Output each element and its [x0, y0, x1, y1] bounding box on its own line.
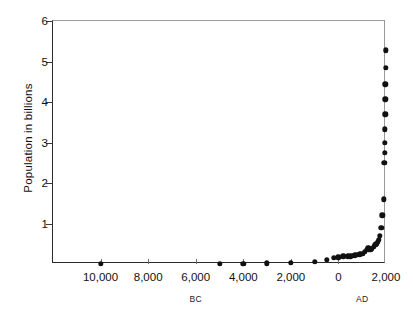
y-tick-label: 6: [42, 15, 48, 27]
era-label-ad: AD: [356, 294, 369, 304]
x-tick-label: 0: [335, 271, 341, 283]
data-point: [382, 160, 387, 165]
data-point: [379, 225, 384, 230]
x-tick-label: 10,000: [83, 271, 118, 283]
x-tick-label: 4,000: [229, 271, 258, 283]
y-tick-label: 5: [42, 56, 48, 68]
y-tick-label: 3: [42, 137, 48, 149]
plot-area: 123456 10,0008,0006,0004,0002,00002,000 …: [52, 20, 385, 263]
data-point: [312, 259, 317, 264]
y-tick-label: 2: [42, 177, 48, 189]
x-tick-label: 6,000: [181, 271, 210, 283]
y-tick-label: 1: [42, 218, 48, 230]
data-point: [264, 261, 269, 266]
data-point: [382, 150, 387, 155]
data-point: [324, 257, 329, 262]
x-tick: [148, 259, 149, 264]
population-chart: Population in billions 123456 10,0008,00…: [0, 0, 413, 315]
data-point: [381, 196, 386, 201]
data-point: [383, 81, 388, 86]
data-point: [217, 261, 222, 266]
data-point: [241, 261, 246, 266]
data-point: [382, 126, 387, 131]
x-tick-label: 8,000: [134, 271, 163, 283]
y-axis-title: Population in billions: [22, 48, 34, 228]
data-point: [377, 233, 382, 238]
data-point: [383, 47, 388, 52]
x-tick-label: 2,000: [276, 271, 305, 283]
data-point: [380, 213, 385, 218]
x-tick-label: 2,000: [372, 271, 401, 283]
y-tick-label: 4: [42, 96, 48, 108]
data-point: [383, 65, 388, 70]
x-tick: [196, 259, 197, 264]
data-point: [98, 261, 103, 266]
data-point: [382, 111, 387, 116]
data-point: [288, 260, 293, 265]
x-tick: [338, 259, 339, 264]
data-point: [383, 96, 388, 101]
era-label-bc: BC: [189, 294, 202, 304]
data-point: [382, 140, 387, 145]
